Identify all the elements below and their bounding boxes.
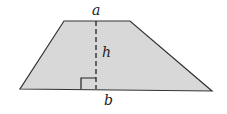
label-h: h bbox=[102, 44, 111, 60]
label-b: b bbox=[104, 92, 113, 108]
trapezoid-diagram: a h b bbox=[0, 0, 227, 114]
label-a: a bbox=[92, 2, 100, 18]
trapezoid-shape bbox=[20, 21, 212, 91]
